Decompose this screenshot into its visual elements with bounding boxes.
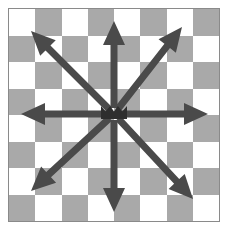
arrow-east[interactable] (120, 103, 208, 125)
arrow-northwest[interactable] (31, 31, 112, 112)
arrow-north[interactable] (103, 21, 125, 108)
arrow-west[interactable] (21, 103, 108, 125)
arrow-southwest[interactable] (31, 116, 112, 191)
arrow-south[interactable] (103, 120, 125, 212)
arrow-northeast[interactable] (115, 27, 182, 111)
board-frame (8, 8, 220, 222)
arrow-southeast[interactable] (116, 116, 193, 199)
figure-root (0, 0, 229, 234)
arrows-layer (9, 9, 219, 221)
arrows-svg (9, 9, 219, 221)
